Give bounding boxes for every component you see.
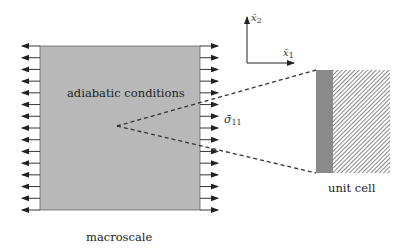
- left-traction-arrows: [22, 46, 40, 210]
- adiabatic-conditions-label: adiabatic conditions: [67, 86, 185, 100]
- unit-cell: [316, 70, 390, 173]
- sigma-subscript: 11: [232, 118, 242, 127]
- unit-cell-label: unit cell: [328, 181, 375, 195]
- stress-sigma-11-label: σ̄11: [224, 113, 242, 127]
- x2-axis-label: x̄2: [251, 12, 262, 25]
- sigma-symbol: σ̄: [224, 113, 232, 126]
- x1-axis-label: x̄1: [283, 47, 294, 60]
- x1-subscript: 1: [289, 51, 294, 60]
- macroscale-block: [40, 46, 200, 210]
- diagram-canvas: adiabatic conditions macroscale unit cel…: [0, 0, 411, 250]
- macroscale-label: macroscale: [86, 230, 152, 244]
- right-traction-arrows: [200, 46, 218, 210]
- unit-cell-solid-band: [316, 70, 333, 173]
- x2-subscript: 2: [257, 16, 262, 25]
- diagram-svg: [0, 0, 411, 250]
